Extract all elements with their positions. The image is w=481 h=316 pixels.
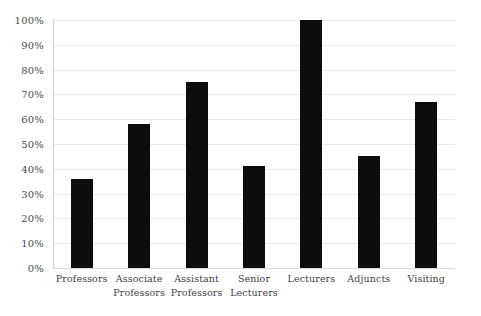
bar-slot: [340, 20, 397, 268]
x-label-line: Assistant: [168, 272, 225, 286]
bar-professors[interactable]: [71, 179, 93, 268]
x-label-line: Lecturers: [283, 272, 340, 286]
y-tick-label: 50%: [21, 139, 44, 150]
bar-adjuncts[interactable]: [358, 156, 380, 268]
bar-associate-professors[interactable]: [128, 124, 150, 268]
x-label-lecturers: Lecturers: [283, 272, 340, 300]
bar-slot: [110, 20, 167, 268]
bar-chart: 100% 90% 80% 70% 60% 50% 40% 30% 20% 10%…: [0, 0, 481, 316]
x-label-line: Professors: [110, 286, 167, 300]
bars-layer: [53, 20, 455, 268]
x-label-line: Visiting: [398, 272, 455, 286]
y-axis-tick-labels: 100% 90% 80% 70% 60% 50% 40% 30% 20% 10%…: [0, 20, 50, 268]
x-label-senior-lecturers: Senior Lecturers: [225, 272, 282, 300]
x-label-visiting: Visiting: [398, 272, 455, 300]
bar-slot: [53, 20, 110, 268]
bar-lecturers[interactable]: [300, 20, 322, 268]
bar-slot: [283, 20, 340, 268]
bar-slot: [398, 20, 455, 268]
bar-slot: [168, 20, 225, 268]
x-label-professors: Professors: [53, 272, 110, 300]
gridline-0: [53, 268, 455, 269]
x-label-line: Professors: [53, 272, 110, 286]
y-tick-label: 20%: [21, 213, 44, 224]
x-label-assistant-professors: Assistant Professors: [168, 272, 225, 300]
bar-assistant-professors[interactable]: [186, 82, 208, 268]
x-label-line: Senior: [225, 272, 282, 286]
bar-senior-lecturers[interactable]: [243, 166, 265, 268]
bar-slot: [225, 20, 282, 268]
x-label-line: Associate: [110, 272, 167, 286]
y-tick-label: 10%: [21, 238, 44, 249]
y-tick-label: 60%: [21, 114, 44, 125]
x-label-line: Adjuncts: [340, 272, 397, 286]
y-tick-label: 100%: [15, 15, 44, 26]
x-label-adjuncts: Adjuncts: [340, 272, 397, 300]
x-label-line: Lecturers: [225, 286, 282, 300]
bar-visiting[interactable]: [415, 102, 437, 268]
x-label-associate-professors: Associate Professors: [110, 272, 167, 300]
y-tick-label: 0%: [28, 263, 44, 274]
x-label-line: Professors: [168, 286, 225, 300]
y-tick-label: 80%: [21, 64, 44, 75]
y-tick-label: 30%: [21, 188, 44, 199]
x-axis-category-labels: Professors Associate Professors Assistan…: [53, 272, 455, 300]
y-tick-label: 70%: [21, 89, 44, 100]
y-tick-label: 40%: [21, 163, 44, 174]
y-tick-label: 90%: [21, 39, 44, 50]
